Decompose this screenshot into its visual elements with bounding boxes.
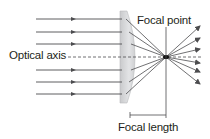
ray-arrowheads [71,17,76,96]
optical-axis-label: Optical axis [9,49,66,61]
diverging-rays [166,26,200,84]
focal-length-label: Focal length [118,121,178,133]
focal-point-label: Focal point [137,14,191,26]
convex-lens [120,11,135,103]
focal-length-bracket [130,112,166,118]
